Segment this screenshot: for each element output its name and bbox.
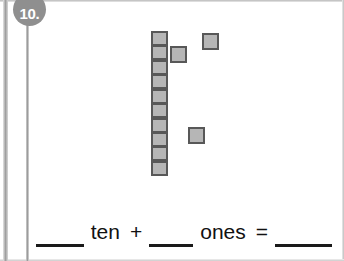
plus-operator: + [125, 221, 147, 248]
base-ten-blocks-area [0, 0, 344, 200]
ten-rod-unit [151, 60, 168, 75]
tens-answer-blank[interactable] [36, 222, 84, 247]
ten-rod-unit [151, 161, 168, 176]
label-ones: ones [195, 221, 251, 248]
ten-rod-unit [151, 89, 168, 104]
equation-answer-line: ten + ones = [34, 214, 334, 254]
ten-rod-unit [151, 31, 168, 46]
ten-rod-unit [151, 103, 168, 118]
single-unit-block [188, 127, 205, 144]
label-ten: ten [86, 221, 125, 248]
single-unit-block [170, 46, 187, 63]
ten-rod-unit [151, 74, 168, 89]
worksheet-page: 10. ten + ones = [0, 0, 344, 261]
total-answer-blank[interactable] [275, 222, 332, 247]
ten-rod-unit [151, 45, 168, 60]
ones-answer-blank[interactable] [149, 222, 193, 247]
equals-operator: = [251, 221, 273, 248]
ten-rod-unit [151, 132, 168, 147]
ten-rod-unit [151, 146, 168, 161]
ten-rod-unit [151, 118, 168, 133]
single-unit-block [202, 33, 219, 50]
